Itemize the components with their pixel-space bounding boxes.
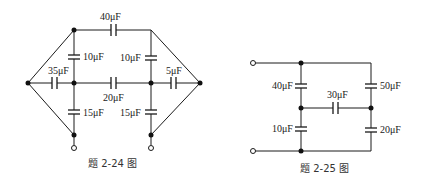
label-15uF-right: 15μF	[120, 107, 141, 118]
node-mid-right	[149, 81, 154, 86]
figure-2-25: 40μF 10μF 50μF 20μF	[251, 61, 402, 175]
node-bottom-right	[149, 133, 154, 138]
node-mid-left-2	[299, 106, 304, 111]
circuit-diagrams: 40μF 10μF 10μF 35μF	[0, 0, 422, 182]
label-35uF: 35μF	[48, 65, 69, 76]
label-30uF: 30μF	[327, 89, 348, 100]
label-10uF-right: 10μF	[120, 52, 141, 63]
label-10uF-left: 10μF	[83, 51, 104, 62]
capacitor-35uF: 35μF	[28, 65, 74, 89]
label-10uF-2: 10μF	[272, 123, 293, 134]
label-15uF-left: 15μF	[83, 107, 104, 118]
capacitor-5uF: 5μF	[151, 65, 200, 89]
label-40uF-2: 40μF	[272, 80, 293, 91]
label-50uF: 50μF	[380, 80, 401, 91]
node-left	[26, 81, 31, 86]
node-top-left	[72, 28, 77, 33]
capacitor-40uF-top: 40μF	[74, 11, 151, 36]
caption-2-25: 题 2-25 图	[300, 163, 349, 174]
node-bottom	[299, 149, 304, 154]
label-40uF: 40μF	[100, 11, 121, 22]
capacitor-10uF: 10μF	[272, 108, 307, 151]
capacitor-10uF-upper-left: 10μF	[68, 30, 104, 83]
wire-diag-bottom-right	[151, 83, 200, 135]
node-mid-right-2	[369, 106, 374, 111]
node-bottom-left	[72, 133, 77, 138]
caption-2-24: 题 2-24 图	[88, 158, 137, 169]
node-top	[299, 61, 304, 66]
capacitor-50uF: 50μF	[365, 63, 401, 108]
terminal-bottom	[251, 149, 256, 154]
terminal-b	[149, 146, 154, 151]
capacitor-20uF: 20μF	[74, 77, 151, 103]
capacitor-30uF: 30μF	[301, 89, 371, 114]
capacitor-20uF-2: 20μF	[365, 108, 401, 151]
node-mid-left	[72, 81, 77, 86]
capacitor-10uF-upper-right: 10μF	[120, 30, 157, 83]
label-20uF-2: 20μF	[380, 124, 401, 135]
wire-diag-bottom-left	[28, 83, 74, 135]
capacitor-40uF: 40μF	[272, 63, 307, 108]
label-5uF: 5μF	[166, 65, 182, 76]
figure-2-24: 40μF 10μF 10μF 35μF	[26, 11, 203, 169]
terminal-a	[72, 146, 77, 151]
terminal-top	[251, 61, 256, 66]
node-right	[198, 81, 203, 86]
label-20uF: 20μF	[103, 92, 124, 103]
